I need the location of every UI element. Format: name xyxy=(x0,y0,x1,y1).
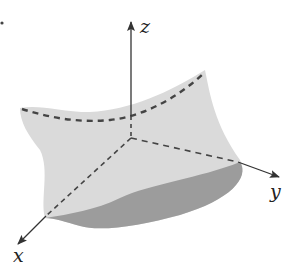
stray-dot xyxy=(0,21,3,24)
y-axis xyxy=(238,162,279,177)
z-axis-label: z xyxy=(139,15,151,37)
x-axis-label: x xyxy=(13,244,24,266)
x-axis xyxy=(18,216,46,244)
y-axis-label: y xyxy=(269,180,281,202)
surface-diagram: z x y xyxy=(0,0,290,266)
